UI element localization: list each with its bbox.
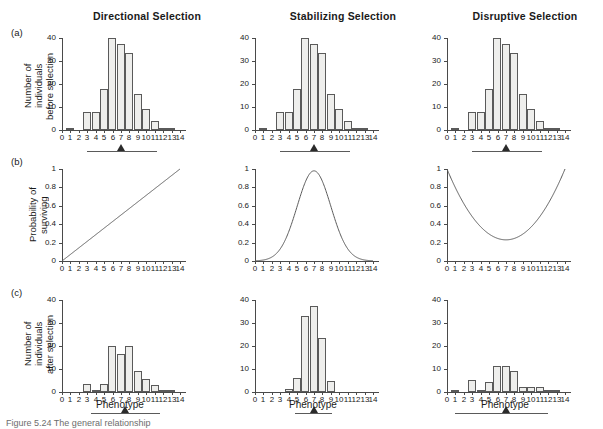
histogram-bar	[510, 371, 518, 392]
y-tick-label: 0.4	[227, 220, 249, 228]
histogram-bar	[142, 379, 150, 392]
y-tick-label: 30	[227, 57, 249, 65]
phenotype-range-bar	[87, 151, 157, 152]
selection-types-figure: Directional Selection Stabilizing Select…	[0, 0, 603, 429]
histogram-bar	[335, 109, 343, 130]
x-axis-line	[447, 392, 571, 393]
y-tick-label: 1	[227, 165, 249, 173]
y-tick	[59, 61, 62, 62]
y-tick-label: 0.4	[419, 220, 441, 228]
histogram-bar	[134, 371, 142, 392]
phenotype-range-bar	[280, 151, 350, 152]
histogram-bar	[493, 366, 501, 392]
y-tick-label: 40	[419, 296, 441, 304]
y-tick	[444, 369, 447, 370]
histogram-bar	[159, 390, 167, 392]
y-tick	[59, 300, 62, 301]
y-tick	[59, 369, 62, 370]
histogram-bar	[100, 384, 108, 392]
survival-probability-curve	[447, 169, 573, 265]
y-tick-label: 0.2	[34, 239, 56, 247]
y-tick	[252, 346, 255, 347]
y-tick	[252, 300, 255, 301]
column-title-stabilizing: Stabilizing Selection	[248, 10, 438, 22]
histogram-bar	[83, 112, 91, 130]
y-tick-label: 40	[227, 296, 249, 304]
y-tick-label: 0	[419, 388, 441, 396]
y-axis-line	[62, 38, 63, 131]
y-tick-label: 0	[34, 388, 56, 396]
histogram-bar	[318, 53, 326, 130]
x-axis-caption-directional: Phenotype	[60, 399, 180, 410]
histogram-bar	[451, 390, 459, 392]
mean-marker-triangle	[310, 144, 318, 151]
histogram-bar	[519, 94, 527, 130]
y-tick-label: 0	[227, 126, 249, 134]
histogram-bar	[285, 112, 293, 130]
y-tick-label: 40	[227, 34, 249, 42]
histogram-bar	[544, 128, 552, 130]
y-tick-label: 20	[227, 342, 249, 350]
y-tick	[59, 84, 62, 85]
histogram-bar	[125, 53, 133, 130]
y-tick-label: 1	[34, 165, 56, 173]
y-tick	[252, 38, 255, 39]
y-tick	[59, 38, 62, 39]
x-axis-caption-stabilizing: Phenotype	[253, 399, 373, 410]
y-axis-line	[62, 300, 63, 393]
histogram-bar	[142, 109, 150, 130]
histogram-bar	[485, 382, 493, 392]
y-tick-label: 0.6	[34, 202, 56, 210]
histogram-bar	[310, 306, 318, 392]
histogram-bar	[108, 38, 116, 130]
y-tick-label: 40	[34, 296, 56, 304]
x-tick-label: 14	[173, 134, 187, 142]
row-tag-a: (a)	[11, 27, 23, 38]
histogram-bar	[117, 44, 125, 130]
y-tick-label: 30	[419, 319, 441, 327]
histogram-bar	[485, 89, 493, 130]
y-tick-label: 30	[419, 57, 441, 65]
y-axis-line	[255, 38, 256, 131]
column-title-directional: Directional Selection	[52, 10, 242, 22]
y-tick	[252, 369, 255, 370]
row-tag-c: (c)	[11, 287, 22, 298]
phenotype-range-bar	[455, 413, 548, 414]
y-tick-label: 0.4	[34, 220, 56, 228]
x-axis-line	[62, 392, 186, 393]
histogram-bar	[167, 128, 175, 130]
histogram-bar	[502, 366, 510, 392]
histogram-bar	[151, 121, 159, 130]
y-tick	[59, 107, 62, 108]
histogram-bar	[259, 128, 267, 130]
histogram-bar	[125, 346, 133, 392]
histogram-bar	[451, 128, 459, 130]
y-tick-label: 20	[227, 80, 249, 88]
histogram-bar	[502, 44, 510, 130]
histogram-bar	[318, 338, 326, 392]
phenotype-range-bar	[472, 151, 542, 152]
y-tick	[59, 323, 62, 324]
y-tick-label: 0.6	[419, 202, 441, 210]
y-tick-label: 0.6	[227, 202, 249, 210]
y-tick	[59, 346, 62, 347]
histogram-bar	[276, 112, 284, 130]
histogram-bar	[552, 128, 560, 130]
y-tick-label: 0	[419, 126, 441, 134]
histogram-bar	[344, 121, 352, 130]
y-tick-label: 0.8	[419, 183, 441, 191]
x-tick-label: 14	[366, 134, 380, 142]
y-tick	[252, 84, 255, 85]
histogram-bar	[468, 112, 476, 130]
histogram-bar	[477, 390, 485, 392]
histogram-bar	[66, 128, 74, 130]
y-tick	[252, 323, 255, 324]
y-tick	[444, 300, 447, 301]
y-tick-label: 30	[34, 57, 56, 65]
column-title-disruptive: Disruptive Selection	[430, 10, 603, 22]
y-axis-line	[447, 300, 448, 393]
y-tick-label: 0.2	[227, 239, 249, 247]
y-tick-label: 20	[34, 80, 56, 88]
y-tick-label: 10	[227, 103, 249, 111]
y-tick-label: 20	[34, 342, 56, 350]
